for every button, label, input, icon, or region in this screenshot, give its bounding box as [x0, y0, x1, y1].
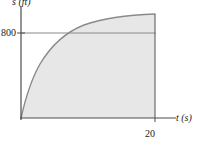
x-axis-label: t (s) — [176, 112, 192, 123]
y-tick-label-800: 800 — [1, 27, 16, 38]
x-tick-label-20: 20 — [145, 128, 155, 139]
figure-container: s (ft) t (s) 800 20 — [0, 0, 199, 149]
y-axis-label: s (ft) — [12, 0, 31, 7]
position-time-chart — [0, 0, 199, 149]
area-under-curve-fill — [21, 14, 155, 118]
